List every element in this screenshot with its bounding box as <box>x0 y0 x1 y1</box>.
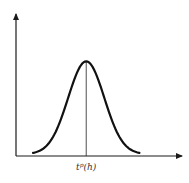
peak-label: tp(h) <box>76 161 97 172</box>
peak-label-argument: (h) <box>84 162 97 172</box>
bell-curve-diagram: tp(h) <box>0 0 189 183</box>
